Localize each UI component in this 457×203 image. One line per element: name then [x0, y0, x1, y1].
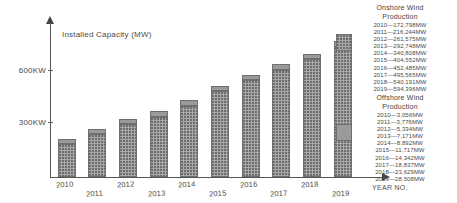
bar-segment-onshore-2011	[88, 134, 106, 177]
legend-item-offshore-4: 2014—8,892MW	[348, 140, 452, 147]
legend-item-onshore-1: 2011—216,244MW	[348, 29, 452, 36]
bar-segment-offshore-2010	[58, 139, 76, 145]
bar-2018	[303, 54, 321, 177]
plot-area: Installed Capacity (MW) 600KW 300KW 2010…	[0, 0, 340, 203]
x-tick-label-2017: 2017	[270, 189, 288, 199]
legend-title-offshore-line1: Offshore Wind	[350, 94, 450, 102]
bar-segment-offshore-2017	[272, 64, 290, 70]
bar-segment-onshore-2018	[303, 59, 321, 177]
legend-item-onshore-7: 2017—495,565MW	[348, 72, 452, 79]
bar-2010	[58, 139, 76, 178]
bar-segment-onshore-2016	[242, 80, 260, 177]
bar-2015	[211, 86, 229, 177]
bar-segment-onshore-2012	[119, 124, 137, 177]
x-tick-label-2014: 2014	[178, 180, 196, 190]
bar-2017	[272, 64, 290, 177]
legend: Onshore Wind Production 2010—172,798MW20…	[336, 0, 457, 203]
bar-segment-offshore-2013	[150, 111, 168, 117]
bar-2014	[180, 100, 198, 177]
bar-2011	[88, 129, 106, 177]
legend-item-offshore-2: 2012—5,334MW	[348, 126, 452, 133]
legend-swatch-offshore	[336, 124, 352, 141]
bar-segment-offshore-2018	[303, 54, 321, 60]
bar-segment-offshore-2011	[88, 129, 106, 135]
legend-item-onshore-2: 2012—261,575MW	[348, 36, 452, 43]
y-tick-label-300: 300KW	[4, 118, 46, 127]
legend-item-offshore-0: 2010—3,056MW	[348, 112, 452, 119]
legend-values-onshore: 2010—172,798MW2011—216,244MW2012—261,575…	[348, 22, 452, 93]
bar-segment-offshore-2014	[180, 100, 198, 106]
bar-2016	[242, 75, 260, 177]
y-tick-label-600: 600KW	[4, 66, 46, 75]
legend-title-offshore-line2: Production	[350, 103, 450, 111]
legend-item-onshore-0: 2010—172,798MW	[348, 22, 452, 29]
bar-2012	[119, 119, 137, 177]
x-tick-label-2012: 2012	[117, 180, 135, 190]
legend-item-onshore-4: 2014—340,808MW	[348, 50, 452, 57]
legend-title-onshore-line1: Onshore Wind	[350, 4, 450, 12]
legend-values-offshore: 2010—3,056MW2011—3,776MW2012—5,334MW2013…	[348, 112, 452, 183]
legend-item-onshore-9: 2019—594,396MW	[348, 86, 452, 93]
legend-item-onshore-3: 2013—292,748MW	[348, 43, 452, 50]
bar-segment-onshore-2015	[211, 91, 229, 177]
legend-item-offshore-1: 2011—3,776MW	[348, 119, 452, 126]
legend-item-offshore-7: 2017—18,837MW	[348, 162, 452, 169]
bar-segment-offshore-2015	[211, 86, 229, 92]
legend-item-onshore-8: 2018—540,191MW	[348, 79, 452, 86]
x-tick-label-2018: 2018	[301, 180, 319, 190]
x-tick-label-2010: 2010	[56, 180, 74, 190]
legend-item-offshore-6: 2016—14,342MW	[348, 155, 452, 162]
bar-segment-onshore-2013	[150, 117, 168, 177]
bar-segment-onshore-2017	[272, 70, 290, 177]
legend-item-onshore-5: 2015—404,552MW	[348, 57, 452, 64]
legend-item-offshore-5: 2015—11,717MW	[348, 147, 452, 154]
legend-block-offshore: Offshore Wind Production 2010—3,056MW201…	[336, 94, 457, 183]
legend-block-onshore: Onshore Wind Production 2010—172,798MW20…	[336, 4, 457, 93]
legend-item-offshore-9: 2019—28,508MW	[348, 176, 452, 183]
x-tick-label-2013: 2013	[148, 189, 166, 199]
bar-segment-onshore-2014	[180, 106, 198, 177]
bar-segment-onshore-2010	[58, 144, 76, 177]
bar-group	[50, 22, 384, 177]
bar-2013	[150, 111, 168, 177]
bar-segment-offshore-2016	[242, 75, 260, 81]
wind-capacity-chart: Installed Capacity (MW) 600KW 300KW 2010…	[0, 0, 457, 203]
x-tick-label-2015: 2015	[209, 189, 227, 199]
legend-title-onshore-line2: Production	[350, 13, 450, 21]
x-tick-label-2016: 2016	[239, 180, 257, 190]
legend-item-offshore-3: 2013—7,171MW	[348, 133, 452, 140]
x-axis-line	[50, 177, 384, 178]
bar-segment-offshore-2012	[119, 119, 137, 125]
legend-item-onshore-6: 2016—452,485MW	[348, 65, 452, 72]
legend-swatch-onshore	[336, 34, 352, 51]
legend-item-offshore-8: 2018—23,629MW	[348, 169, 452, 176]
x-tick-label-2011: 2011	[86, 189, 103, 199]
